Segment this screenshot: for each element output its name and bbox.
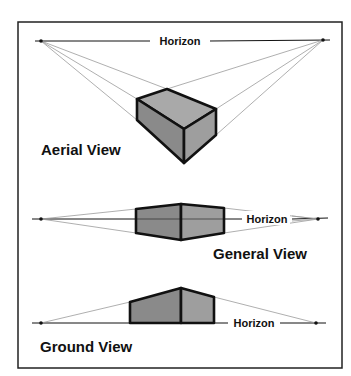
ground-box: [130, 288, 214, 323]
box-left-face: [136, 204, 181, 240]
horizon-label: Horizon: [160, 35, 201, 47]
aerial-box: [137, 89, 216, 163]
general-view-panel: Horizon General View: [32, 204, 328, 262]
panel-title: General View: [213, 245, 307, 262]
vanishing-point-left: [39, 39, 43, 43]
horizon-line: [210, 40, 330, 41]
panel-title: Aerial View: [41, 141, 121, 158]
vanishing-point-right: [321, 38, 325, 42]
horizon-label: Horizon: [234, 317, 275, 329]
perspective-diagram: Horizon Aerial View Horizon General View: [0, 0, 351, 376]
vanishing-point-right: [316, 217, 320, 221]
vanishing-point-left: [39, 321, 43, 325]
box-right-face: [181, 288, 214, 323]
horizon-label: Horizon: [247, 213, 288, 225]
box-right-face: [181, 204, 224, 240]
panel-title: Ground View: [40, 338, 133, 355]
vanishing-point-right: [314, 321, 318, 325]
vanishing-point-left: [39, 217, 43, 221]
box-left-face: [130, 288, 181, 323]
ground-view-panel: Horizon Ground View: [32, 288, 326, 355]
aerial-view-panel: Horizon Aerial View: [35, 35, 330, 163]
general-box: [136, 204, 224, 240]
